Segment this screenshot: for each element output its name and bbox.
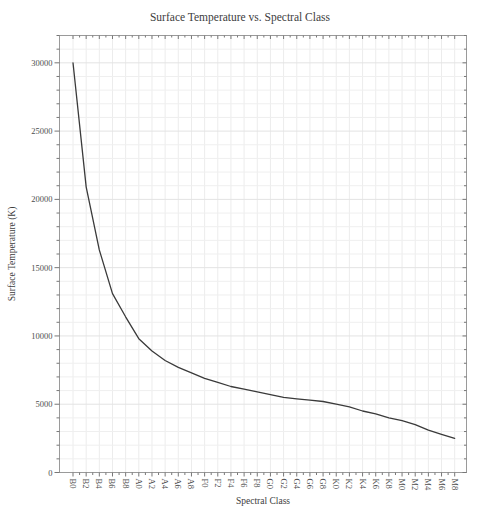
tick-label: 0	[48, 468, 52, 478]
plot-area: 050001000015000200002500030000B0B2B4B6B8…	[0, 0, 481, 511]
tick-label: A8	[186, 479, 196, 489]
tick-label: F0	[200, 479, 210, 488]
tick-label: K6	[371, 479, 381, 489]
chart-title: Surface Temperature vs. Spectral Class	[150, 11, 331, 24]
tick-label: 5000	[36, 399, 53, 409]
tick-label: M0	[397, 479, 407, 491]
chart-figure: 050001000015000200002500030000B0B2B4B6B8…	[0, 0, 481, 511]
tick-label: K8	[384, 479, 394, 489]
tick-label: K0	[331, 479, 341, 489]
tick-label: B2	[81, 479, 91, 489]
tick-label: G4	[292, 479, 302, 490]
data-line	[73, 63, 455, 439]
tick-label: B4	[94, 479, 104, 490]
tick-label: A2	[147, 479, 157, 489]
tick-label: B8	[121, 479, 131, 489]
tick-label: A6	[173, 479, 183, 489]
x-axis-ticks	[73, 36, 455, 477]
tick-label: B6	[107, 479, 117, 489]
tick-label: M8	[450, 479, 460, 491]
tick-label: K2	[344, 479, 354, 489]
tick-label: A4	[160, 479, 170, 490]
tick-label: G2	[279, 479, 289, 489]
tick-label: 10000	[31, 331, 52, 341]
tick-label: F6	[239, 479, 249, 488]
grid	[60, 36, 467, 473]
tick-label: 15000	[31, 263, 52, 273]
tick-label: G8	[318, 479, 328, 489]
tick-label: F2	[213, 479, 223, 488]
tick-label: 25000	[31, 126, 52, 136]
x-tick-labels: B0B2B4B6B8A0A2A4A6A8F0F2F4F6F8G0G2G4G6G8…	[68, 479, 460, 492]
tick-label: F8	[252, 479, 262, 488]
tick-label: G6	[305, 479, 315, 489]
tick-label: M4	[423, 479, 433, 492]
tick-label: 20000	[31, 194, 52, 204]
tick-label: F4	[226, 479, 236, 489]
tick-label: B0	[68, 479, 78, 489]
tick-label: 30000	[31, 58, 52, 68]
y-tick-labels: 050001000015000200002500030000	[31, 58, 52, 478]
y-axis-label: Surface Temperature (K)	[7, 207, 18, 302]
tick-label: M6	[437, 479, 447, 491]
tick-label: M2	[410, 479, 420, 491]
tick-label: K4	[358, 479, 368, 490]
tick-label: A0	[134, 479, 144, 489]
tick-label: G0	[265, 479, 275, 489]
x-axis-label: Spectral Class	[236, 496, 290, 506]
